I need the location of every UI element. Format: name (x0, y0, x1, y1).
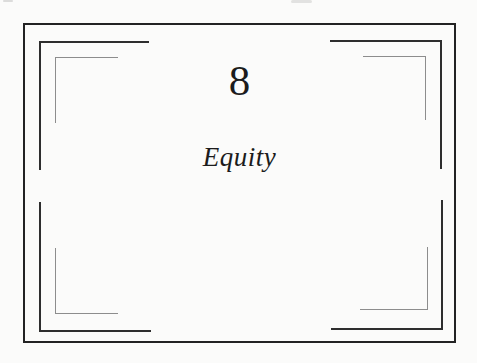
corner-bracket-light-bottom-right (360, 247, 428, 310)
chapter-title: Equity (23, 144, 456, 171)
chapter-number: 8 (23, 59, 456, 102)
corner-bracket-light-bottom-left (55, 248, 118, 314)
scan-artifact (3, 0, 13, 2)
scan-artifact (291, 0, 312, 3)
book-chapter-page: 8 Equity (0, 0, 477, 363)
